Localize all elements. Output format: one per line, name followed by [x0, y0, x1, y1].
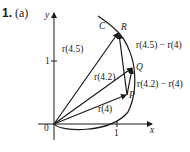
vector-diff42-label: r(4.2) − r(4)	[137, 79, 183, 90]
x-axis-label: x	[149, 125, 155, 135]
origin-label: 0	[44, 123, 49, 133]
point-q-label: Q	[136, 62, 143, 72]
y-axis-label: y	[44, 10, 50, 20]
vector-r4-label: r(4)	[98, 104, 112, 115]
vector-r42-label: r(4.2)	[94, 72, 115, 83]
vector-r45-label: r(4.5)	[62, 44, 83, 55]
y-tick-label: 1	[45, 56, 50, 66]
point-r-label: R	[120, 22, 127, 32]
x-tick-label: 1	[114, 128, 119, 138]
vector-r42	[54, 68, 132, 124]
vector-diagram: x y 0 1 1 C R Q P r(4.5) r(4.2) r(4) r(4…	[0, 0, 190, 152]
vector-diff45-label: r(4.5) − r(4)	[136, 40, 182, 51]
curve-c-label: C	[99, 21, 106, 31]
point-p-label: P	[128, 90, 135, 100]
